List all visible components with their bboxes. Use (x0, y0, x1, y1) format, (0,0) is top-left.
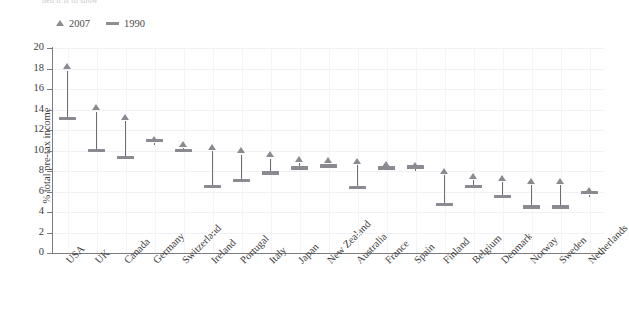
gridline-vertical (387, 48, 388, 253)
gridline-vertical (329, 48, 330, 253)
marker-2007 (121, 114, 129, 120)
y-axis-tick (47, 253, 53, 254)
marker-2007 (440, 168, 448, 174)
legend-label-2007: 2007 (69, 18, 90, 29)
connector-stem (212, 151, 214, 186)
marker-2007 (237, 147, 245, 153)
horizontal-bar-icon (106, 22, 119, 25)
marker-1990 (117, 156, 134, 159)
marker-1990 (494, 195, 511, 198)
legend-label-1990: 1990 (124, 18, 145, 29)
gridline-vertical (445, 48, 446, 253)
y-axis-tick-label: 12 (18, 124, 44, 135)
legend-item-1990: 1990 (106, 18, 145, 29)
gridline-vertical (358, 48, 359, 253)
y-axis-tick-label: 16 (18, 83, 44, 94)
marker-2007 (295, 156, 303, 162)
gridline-vertical (300, 48, 301, 253)
connector-stem (154, 143, 156, 145)
marker-1990 (204, 185, 221, 188)
gridline-vertical (590, 48, 591, 253)
marker-1990 (88, 149, 105, 152)
connector-stem (444, 175, 446, 205)
y-axis-tick-label: 18 (18, 63, 44, 74)
marker-1990 (175, 149, 192, 152)
y-axis-tick-label: 2 (18, 227, 44, 238)
y-axis-tick-label: 8 (18, 165, 44, 176)
gridline-vertical (416, 48, 417, 253)
connector-stem (531, 185, 533, 207)
marker-2007 (208, 144, 216, 150)
marker-1990 (378, 166, 395, 169)
marker-1990 (349, 186, 366, 189)
top-cropped-caption: nen it is to snow (42, 0, 342, 6)
gridline-vertical (474, 48, 475, 253)
marker-2007 (179, 141, 187, 147)
connector-stem (560, 185, 562, 207)
marker-1990 (233, 179, 250, 182)
marker-2007 (498, 175, 506, 181)
chart-legend: 2007 1990 (56, 16, 145, 30)
y-axis-tick-label: 6 (18, 186, 44, 197)
connector-stem (125, 121, 127, 158)
marker-2007 (266, 151, 274, 157)
gridline-vertical (503, 48, 504, 253)
marker-1990 (262, 171, 279, 174)
marker-2007 (150, 136, 158, 142)
marker-2007 (556, 178, 564, 184)
marker-2007 (411, 162, 419, 168)
connector-stem (589, 195, 591, 197)
marker-2007 (585, 187, 593, 193)
y-axis-tick-label: 14 (18, 104, 44, 115)
gridline-vertical (561, 48, 562, 253)
marker-1990 (465, 185, 482, 188)
marker-1990 (436, 203, 453, 206)
marker-1990 (291, 166, 308, 169)
marker-2007 (382, 161, 390, 167)
y-axis-tick-label: 4 (18, 206, 44, 217)
legend-item-2007: 2007 (56, 18, 90, 29)
marker-2007 (63, 63, 71, 69)
y-axis-tick-label: 0 (18, 247, 44, 258)
connector-stem (415, 169, 417, 171)
connector-stem (241, 155, 243, 181)
marker-2007 (527, 178, 535, 184)
gridline-vertical (155, 48, 156, 253)
gridline-vertical (532, 48, 533, 253)
marker-2007 (92, 104, 100, 110)
y-axis-tick-label: 10 (18, 145, 44, 156)
connector-stem (67, 71, 69, 119)
marker-2007 (469, 173, 477, 179)
triangle-up-icon (56, 20, 64, 26)
connector-stem (357, 165, 359, 188)
marker-1990 (523, 205, 540, 208)
marker-1990 (320, 164, 337, 167)
marker-2007 (324, 157, 332, 163)
y-axis-tick-label: 20 (18, 42, 44, 53)
marker-1990 (552, 205, 569, 208)
marker-2007 (353, 158, 361, 164)
connector-stem (96, 112, 98, 151)
marker-1990 (59, 117, 76, 120)
